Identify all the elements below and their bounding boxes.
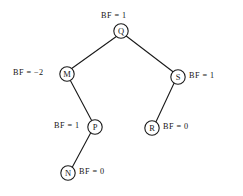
node-s-key: S [176, 72, 181, 82]
edge-p-n [73, 133, 91, 167]
balance-factor-label-q: BF = 1 [101, 12, 127, 20]
avl-tree-diagram: Q M S P R N BF = 1 BF [0, 0, 243, 196]
balance-factor-label-p: BF = 1 [54, 122, 80, 130]
node-m[interactable]: M [60, 67, 74, 81]
edge-q-m [72, 37, 116, 68]
node-s[interactable]: S [171, 70, 185, 84]
tree-graphics: Q M S P R N [0, 0, 243, 196]
edge-group [71, 36, 175, 167]
node-r[interactable]: R [145, 121, 159, 135]
node-m-key: M [63, 69, 71, 79]
node-n-key: N [65, 168, 71, 178]
node-n[interactable]: N [61, 166, 75, 180]
balance-factor-label-m: BF = −2 [13, 69, 44, 77]
balance-factor-label-n: BF = 0 [79, 168, 105, 176]
balance-factor-label-s: BF = 1 [189, 72, 215, 80]
node-group: Q M S P R N [60, 24, 185, 180]
edge-m-p [71, 81, 92, 121]
balance-factor-label-r: BF = 0 [163, 123, 189, 131]
node-q-key: Q [118, 26, 124, 36]
node-q[interactable]: Q [114, 24, 128, 38]
edge-s-r [156, 83, 174, 122]
node-p[interactable]: P [88, 120, 102, 134]
node-p-key: P [93, 122, 98, 132]
edge-q-s [126, 36, 173, 72]
node-r-key: R [149, 123, 155, 133]
